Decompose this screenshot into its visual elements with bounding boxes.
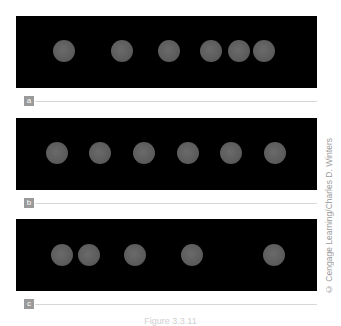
panel-label-a: a <box>24 96 34 106</box>
panel-label-c: c <box>24 299 34 309</box>
coin <box>228 40 250 62</box>
coin <box>177 142 199 164</box>
panel-label-row-a: a <box>24 96 317 106</box>
coin <box>158 40 180 62</box>
coin <box>133 142 155 164</box>
divider-line <box>35 101 317 102</box>
coin <box>200 40 222 62</box>
coin <box>220 142 242 164</box>
divider-line <box>35 304 317 305</box>
coin <box>78 244 100 266</box>
panel-label-row-c: c <box>24 299 317 309</box>
coin <box>253 40 275 62</box>
coin <box>53 40 75 62</box>
coin <box>51 244 73 266</box>
figure-caption: Figure 3.3.11 <box>0 316 341 326</box>
photo-panel-a <box>16 16 317 88</box>
coin <box>89 142 111 164</box>
photo-panel-c <box>16 219 317 291</box>
panel-label-row-b: b <box>24 198 317 208</box>
coin <box>181 244 203 266</box>
photo-panel-b <box>16 118 317 190</box>
coin <box>111 40 133 62</box>
photo-credit: © Cengage Learning/Charles D. Winters <box>322 148 336 294</box>
coin <box>264 142 286 164</box>
coin <box>46 142 68 164</box>
divider-line <box>35 203 317 204</box>
coin <box>263 244 285 266</box>
panel-label-b: b <box>24 198 34 208</box>
coin <box>124 244 146 266</box>
